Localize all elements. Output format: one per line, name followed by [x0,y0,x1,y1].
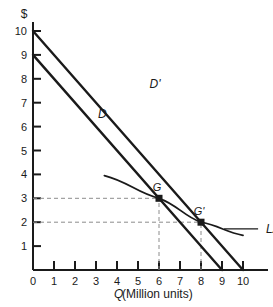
curve-label-d-prime: D' [150,77,162,91]
curve-label-d: D [98,107,107,121]
y-tick-label-5: 5 [21,145,27,157]
x-tick-label-4: 4 [114,275,120,287]
x-tick-label-6: 6 [156,275,162,287]
y-tick-label-7: 7 [21,97,27,109]
x-tick-label-8: 8 [198,275,204,287]
y-tick-label-4: 4 [21,168,27,180]
x-axis-title-units: (Million units) [122,287,193,301]
y-tick-label-3: 3 [21,192,27,204]
x-tick-label-3: 3 [93,275,99,287]
y-tick-label-9: 9 [21,49,27,61]
curve-d-prime [33,31,243,270]
y-tick-label-1: 1 [21,240,27,252]
point-marker-g-prime [198,219,205,226]
y-tick-label-2: 2 [21,216,27,228]
x-tick-label-1: 1 [51,275,57,287]
x-tick-label-5: 5 [135,275,141,287]
x-tick-label-10: 10 [237,275,249,287]
y-tick-label-10: 10 [15,25,27,37]
x-tick-label-2: 2 [72,275,78,287]
x-tick-label-9: 9 [219,275,225,287]
curve-label-lac: LAC [266,222,273,236]
economics-demand-lac-chart: $ Q (Million units) 12345678910 01234567… [0,0,273,307]
point-marker-g [156,195,163,202]
x-tick-label-7: 7 [177,275,183,287]
y-axis-title: $ [21,7,28,21]
x-axis-title: Q (Million units) [114,287,193,301]
y-tick-label-6: 6 [21,121,27,133]
chart-canvas: $ Q (Million units) 12345678910 01234567… [0,0,273,307]
y-tick-label-8: 8 [21,73,27,85]
x-tick-label-0: 0 [30,275,36,287]
guide-lines-group [33,198,201,270]
curves-group [33,31,243,270]
curve-lac [104,176,243,236]
point-label-g: G [153,181,162,193]
curve-labels-group: DD'LAC [98,77,273,236]
point-label-g-prime: G' [194,205,206,217]
curve-d [33,55,222,270]
